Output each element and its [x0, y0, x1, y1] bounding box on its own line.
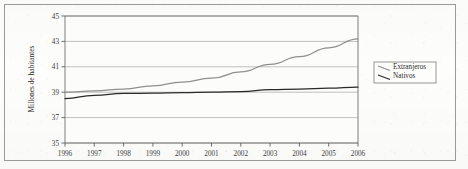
- x-tick-label: 1997: [87, 150, 102, 158]
- y-tick-label: 43: [52, 38, 60, 46]
- x-tick-label: 2004: [292, 150, 307, 158]
- x-tick-label: 2000: [175, 150, 190, 158]
- x-axis-ticks: 1996199719981999200020012002200320042005…: [58, 143, 366, 158]
- y-tick-label: 39: [52, 89, 60, 97]
- x-tick-label: 2005: [322, 150, 337, 158]
- x-tick-label: 1999: [146, 150, 161, 158]
- x-tick-label: 2002: [234, 150, 249, 158]
- line-chart: 353739414345 199619971998199920002001200…: [0, 0, 468, 169]
- figure-page: 353739414345 199619971998199920002001200…: [0, 0, 468, 169]
- x-tick-label: 1996: [58, 150, 73, 158]
- y-tick-label: 35: [52, 140, 60, 148]
- x-tick-label: 2003: [263, 150, 278, 158]
- x-tick-label: 2006: [351, 150, 366, 158]
- y-tick-label: 37: [52, 114, 60, 122]
- legend-label: Extranjeros: [393, 63, 426, 71]
- chart-legend: ExtranjerosNativos: [374, 62, 436, 83]
- y-axis-ticks: 353739414345: [52, 13, 65, 148]
- y-axis-title: Millones de habitantes: [27, 45, 36, 112]
- plot-area-background: [65, 16, 358, 143]
- legend-label: Nativos: [393, 72, 416, 80]
- x-tick-label: 1998: [116, 150, 131, 158]
- x-tick-label: 2001: [204, 150, 219, 158]
- y-tick-label: 45: [52, 13, 60, 21]
- y-tick-label: 41: [52, 63, 60, 71]
